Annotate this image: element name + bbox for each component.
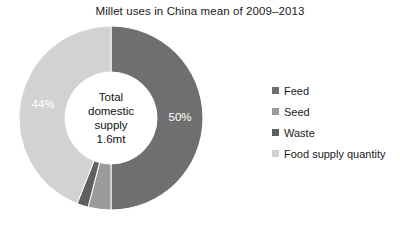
donut-chart: 50%4%2%44% Total domestic supply 1.6mt [18,25,204,211]
slice-value-label: 44% [32,98,55,110]
legend-swatch-icon [272,150,279,157]
chart-legend: FeedSeedWasteFood supply quantity [272,80,398,164]
center-line-1: Total [99,90,123,104]
legend-item-label: Seed [284,106,310,118]
slice-value-label: 50% [168,111,191,123]
legend-swatch-icon [272,108,279,115]
legend-item[interactable]: Seed [272,101,398,122]
center-line-3: supply [94,118,127,132]
chart-container: Millet uses in China mean of 2009–2013 5… [0,0,400,229]
center-line-4: 1.6mt [97,132,126,146]
legend-item-label: Feed [284,85,309,97]
legend-item-label: Waste [284,127,315,139]
legend-item[interactable]: Waste [272,122,398,143]
legend-swatch-icon [272,129,279,136]
legend-item[interactable]: Food supply quantity [272,143,398,164]
legend-item-label: Food supply quantity [284,148,386,160]
center-annotation: Total domestic supply 1.6mt [64,81,158,155]
center-line-2: domestic [88,104,134,118]
legend-item[interactable]: Feed [272,80,398,101]
legend-swatch-icon [272,87,279,94]
chart-title: Millet uses in China mean of 2009–2013 [0,5,400,17]
